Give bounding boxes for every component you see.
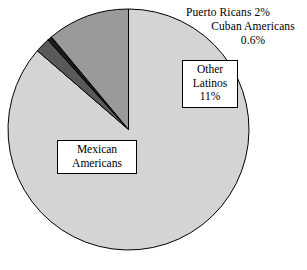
slice-label-puerto-ricans: Puerto Ricans 2% [186, 6, 270, 20]
slice-label-mexican-americans-line2: Americans [63, 157, 131, 171]
slice-label-other-latinos-value: 11% [188, 90, 232, 104]
slice-label-cuban-americans-value: 0.6% [203, 34, 303, 48]
slice-label-other-latinos-line1: Other [188, 63, 232, 77]
slice-label-mexican-americans-line1: Mexican [63, 143, 131, 157]
slice-label-mexican-americans: Mexican Americans [57, 140, 137, 174]
pie-chart-figure: Puerto Ricans 2% Cuban Americans 0.6% Ot… [0, 0, 307, 270]
slice-label-cuban-americans: Cuban Americans 0.6% [203, 20, 303, 47]
slice-label-other-latinos-line2: Latinos [188, 77, 232, 91]
slice-label-puerto-ricans-text: Puerto Ricans 2% [186, 6, 270, 20]
slice-label-other-latinos: Other Latinos 11% [182, 60, 238, 108]
slice-label-cuban-americans-name: Cuban Americans [203, 20, 303, 34]
